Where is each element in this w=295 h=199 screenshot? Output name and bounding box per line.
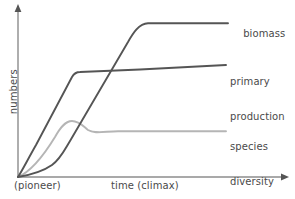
series-line-biomass	[18, 23, 228, 177]
legend-primary-production-line1: primary	[230, 76, 285, 88]
legend-species-diversity-line2: diversity	[230, 176, 274, 188]
x-axis-label-pioneer: (pioneer)	[14, 180, 61, 192]
legend-label-species-diversity: species diversity	[230, 118, 274, 199]
series-line-primary-production	[18, 65, 226, 177]
y-axis-arrow-icon	[15, 4, 22, 12]
x-axis-arrow-icon	[281, 174, 289, 181]
legend-biomass-text: biomass	[243, 28, 285, 39]
x-axis-label-time-climax: time (climax)	[111, 180, 179, 192]
y-axis-label: numbers	[8, 64, 20, 120]
legend-label-biomass: biomass	[230, 16, 285, 51]
series-line-species-diversity	[18, 121, 226, 177]
legend-species-diversity-line1: species	[230, 141, 274, 153]
succession-chart-figure: numbers (pioneer) time (climax) biomass …	[0, 0, 295, 199]
